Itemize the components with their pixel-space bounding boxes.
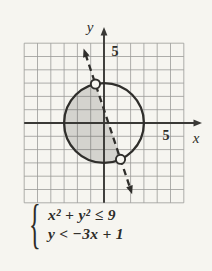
x-axis-tick-label: 5 — [163, 128, 170, 143]
x-axis-label: x — [192, 130, 200, 146]
textbook-figure: y 5 5 x { x² + y² ≤ 9 y < −3x + 1 — [0, 0, 212, 271]
open-intersection-point — [91, 79, 100, 88]
open-intersection-point — [116, 155, 125, 164]
y-axis-label: y — [85, 19, 94, 35]
system-of-inequalities: { x² + y² ≤ 9 y < −3x + 1 — [29, 201, 124, 247]
system-brace: { — [29, 201, 41, 247]
inequality-line: y < −3x + 1 — [48, 224, 124, 243]
y-axis-arrowhead — [101, 27, 108, 36]
equation-lines: x² + y² ≤ 9 y < −3x + 1 — [48, 205, 124, 243]
inequality-circle: x² + y² ≤ 9 — [48, 205, 124, 224]
inequality-graph: y 5 5 x — [0, 0, 212, 212]
x-axis-arrowhead — [194, 120, 203, 127]
y-axis-tick-label: 5 — [112, 44, 119, 59]
